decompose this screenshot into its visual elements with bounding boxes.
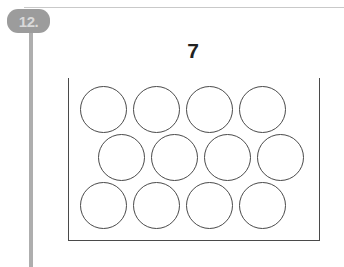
counter-circle[interactable] (186, 86, 233, 133)
counter-circle[interactable] (98, 134, 145, 181)
counter-tray (68, 78, 320, 241)
counter-circle[interactable] (239, 182, 286, 229)
top-divider-rule (24, 7, 344, 8)
counter-circle[interactable] (80, 182, 127, 229)
target-number-value: 7 (187, 39, 199, 62)
counter-circle[interactable] (239, 86, 286, 133)
problem-number-label: 12. (19, 14, 38, 29)
counter-circle[interactable] (151, 134, 198, 181)
target-number: 7 (0, 40, 344, 61)
counter-circle[interactable] (80, 86, 127, 133)
counter-circle[interactable] (133, 182, 180, 229)
worksheet-problem-page: 12. 7 (0, 0, 344, 267)
counter-row (80, 86, 286, 133)
problem-number-badge: 12. (7, 9, 50, 33)
counter-circle[interactable] (186, 182, 233, 229)
counter-circle[interactable] (204, 134, 251, 181)
counter-row (98, 134, 304, 181)
counter-row (80, 182, 286, 229)
left-margin-spine (29, 30, 33, 267)
counter-circle[interactable] (257, 134, 304, 181)
counter-circle[interactable] (133, 86, 180, 133)
